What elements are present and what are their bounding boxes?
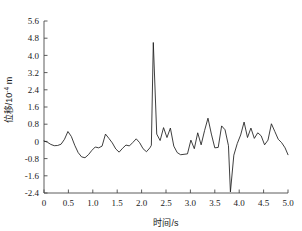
y-axis-title-group: 位移/10-4 m [3,77,14,123]
y-axis-title: 位移/10-4 m [3,77,14,123]
x-axis-title-group: 时间/s [153,217,179,228]
y-tick-label-8: 4.0 [28,51,40,61]
x-tick-label-4: 2.0 [136,198,148,208]
plot-background [0,0,302,231]
x-tick-label-10: 5.0 [282,198,294,208]
y-tick-label-9: 4.8 [28,33,40,43]
x-tick-label-0: 0 [42,198,47,208]
x-tick-label-1: 0.5 [63,198,75,208]
y-tick-label-6: 2.4 [28,85,40,95]
y-axis-title-suffix: m [4,77,14,87]
y-tick-label-4: 0.8 [28,119,40,129]
x-tick-label-5: 2.5 [160,198,172,208]
displacement-time-plot: 00.51.01.52.02.53.03.54.04.55.0 -2.4-1.6… [0,0,302,231]
y-axis-title-prefix: 位移/10 [3,93,14,124]
x-tick-label-8: 4.0 [234,198,246,208]
y-tick-label-1: -1.6 [25,171,40,181]
x-tick-label-7: 3.5 [209,198,221,208]
x-axis-title: 时间/s [153,217,179,228]
y-tick-label-5: 1.6 [28,102,40,112]
y-tick-label-0: -2.4 [25,188,40,198]
x-tick-label-9: 4.5 [258,198,270,208]
x-tick-label-3: 1.5 [112,198,124,208]
chart-figure: 00.51.01.52.02.53.03.54.04.55.0 -2.4-1.6… [0,0,302,231]
y-tick-label-10: 5.6 [28,16,40,26]
x-tick-label-2: 1.0 [87,198,99,208]
y-tick-label-3: 0 [35,137,40,147]
y-tick-label-2: -0.8 [25,154,40,164]
y-tick-label-7: 3.2 [28,68,39,78]
x-tick-label-6: 3.0 [185,198,197,208]
